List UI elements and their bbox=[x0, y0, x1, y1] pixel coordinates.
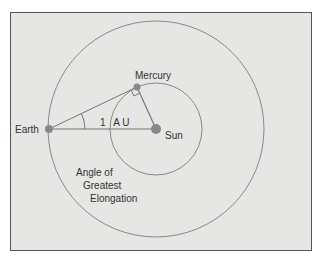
angle-label-line1: Angle of bbox=[76, 167, 113, 178]
sun-label: Sun bbox=[165, 130, 183, 141]
mercury-label: Mercury bbox=[135, 70, 171, 81]
earth-label: Earth bbox=[15, 124, 39, 135]
angle-arc bbox=[82, 114, 86, 129]
sun-dot bbox=[151, 124, 161, 134]
angle-label-line3: Elongation bbox=[90, 193, 137, 204]
orbit-diagram bbox=[0, 0, 324, 261]
distance-label: 1 A U bbox=[100, 117, 129, 128]
angle-label-line2: Greatest bbox=[83, 180, 121, 191]
earth-dot bbox=[45, 125, 53, 133]
mercury-dot bbox=[134, 84, 141, 91]
